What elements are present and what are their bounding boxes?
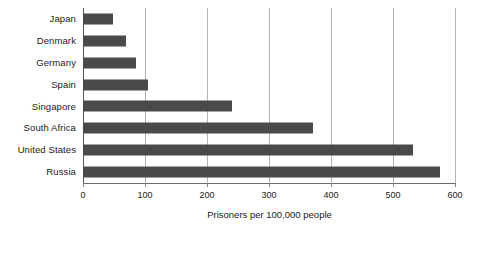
x-axis-title-text: Prisoners per 100,000 people [207, 209, 332, 220]
x-tick-mark [145, 183, 146, 187]
bar [83, 79, 148, 90]
plot-area [83, 8, 455, 183]
bar-row [83, 8, 455, 30]
category-label: Spain [51, 74, 76, 96]
x-tick-label: 600 [447, 190, 462, 200]
x-tick-label: 500 [385, 190, 400, 200]
x-tick-label: 100 [137, 190, 152, 200]
x-tick-mark [331, 183, 332, 187]
bar [83, 123, 313, 134]
category-label: Singapore [32, 96, 76, 118]
bar-row [83, 161, 455, 183]
bar-chart: JapanDenmarkGermanySpainSingaporeSouth A… [0, 0, 481, 254]
x-tick-mark [207, 183, 208, 187]
x-axis-title: Prisoners per 100,000 people [0, 209, 481, 220]
bar [83, 167, 440, 178]
category-label: Denmark [37, 30, 76, 52]
x-tick-label: 0 [80, 190, 85, 200]
bar-row [83, 139, 455, 161]
bar [83, 101, 232, 112]
bar-row [83, 74, 455, 96]
bar-row [83, 52, 455, 74]
x-tick-mark [455, 183, 456, 187]
x-tick-label: 400 [323, 190, 338, 200]
bar [83, 145, 413, 156]
x-tick-label: 300 [261, 190, 276, 200]
bar [83, 57, 136, 68]
bar-row [83, 96, 455, 118]
bar-row [83, 30, 455, 52]
category-label: Russia [46, 161, 76, 183]
category-label: South Africa [24, 117, 76, 139]
bar [83, 35, 126, 46]
x-tick-mark [393, 183, 394, 187]
category-label: Japan [50, 8, 76, 30]
x-tick-label: 200 [199, 190, 214, 200]
x-tick-mark [83, 183, 84, 187]
category-axis-labels: JapanDenmarkGermanySpainSingaporeSouth A… [0, 8, 76, 183]
gridline [455, 8, 456, 183]
bar [83, 13, 113, 24]
bar-row [83, 117, 455, 139]
category-label: United States [18, 139, 76, 161]
category-label: Germany [36, 52, 76, 74]
x-tick-mark [269, 183, 270, 187]
